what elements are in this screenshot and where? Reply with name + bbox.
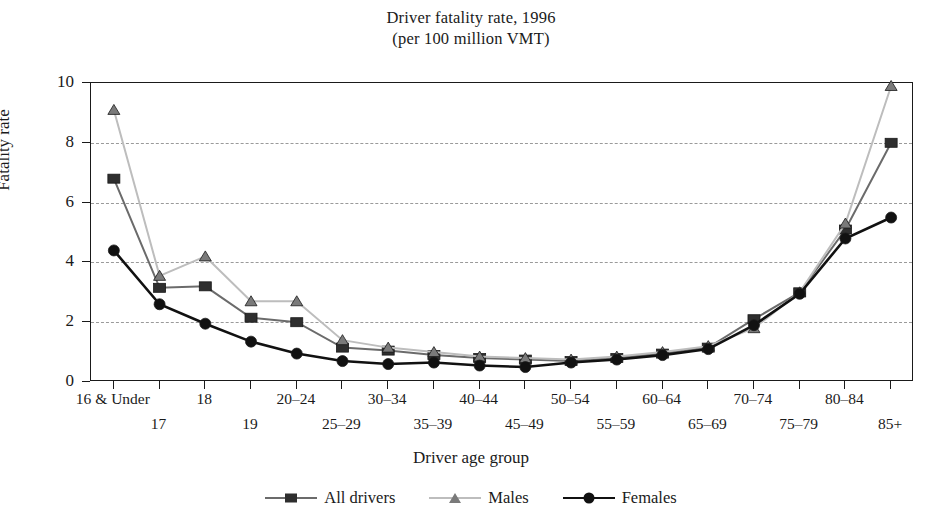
x-tick-label-12: 60–64	[642, 390, 681, 408]
legend-swatch	[265, 491, 317, 505]
x-tick-mark-0	[113, 381, 114, 389]
legend-marker-circle-icon	[583, 493, 594, 504]
x-tick-label-4: 20–24	[276, 390, 315, 408]
data-point	[428, 357, 439, 368]
x-tick-mark-10	[570, 381, 571, 389]
data-point	[886, 212, 897, 223]
x-tick-label-13: 65–69	[688, 415, 727, 433]
x-tick-mark-9	[524, 381, 525, 389]
data-point	[246, 336, 257, 347]
x-tick-mark-17	[890, 381, 891, 389]
y-tick-mark-6	[82, 202, 90, 203]
y-tick-label-2: 2	[34, 311, 74, 331]
data-point	[885, 138, 897, 147]
data-point	[199, 251, 211, 261]
y-tick-label-8: 8	[34, 132, 74, 152]
x-tick-mark-2	[204, 381, 205, 389]
data-point	[108, 174, 120, 183]
y-tick-label-6: 6	[34, 192, 74, 212]
x-tick-mark-1	[159, 381, 160, 389]
data-point	[291, 318, 303, 327]
data-point	[657, 350, 668, 361]
x-tick-mark-11	[616, 381, 617, 389]
legend-swatch	[429, 491, 481, 505]
x-tick-label-15: 75–79	[779, 415, 818, 433]
data-point	[154, 283, 166, 292]
legend-marker-square-icon	[285, 494, 297, 503]
x-tick-mark-12	[662, 381, 663, 389]
legend-item-females[interactable]: Females	[563, 488, 677, 508]
data-point	[474, 360, 485, 371]
x-tick-mark-16	[844, 381, 845, 389]
data-point	[611, 354, 622, 365]
data-point	[245, 313, 257, 322]
y-tick-label-4: 4	[34, 251, 74, 271]
x-tick-label-2: 18	[197, 390, 213, 408]
x-tick-mark-8	[479, 381, 480, 389]
x-tick-label-1: 17	[151, 415, 167, 433]
chart-subtitle: (per 100 million VMT)	[0, 29, 942, 50]
y-tick-mark-4	[82, 261, 90, 262]
x-tick-mark-13	[707, 381, 708, 389]
x-tick-mark-7	[433, 381, 434, 389]
legend-label: Males	[488, 488, 528, 508]
x-tick-label-14: 70–74	[734, 390, 773, 408]
x-tick-label-9: 45–49	[505, 415, 544, 433]
data-point	[840, 233, 851, 244]
x-tick-mark-5	[341, 381, 342, 389]
series-females	[108, 212, 896, 372]
data-point	[566, 357, 577, 368]
data-point	[199, 282, 211, 291]
x-tick-label-7: 35–39	[414, 415, 453, 433]
data-point	[291, 348, 302, 359]
data-point	[520, 362, 531, 373]
y-axis-title: Fatality rate	[0, 109, 14, 191]
data-point	[154, 299, 165, 310]
series-males	[108, 80, 897, 364]
data-point	[337, 356, 348, 367]
series-line	[114, 143, 891, 361]
x-tick-label-3: 19	[242, 415, 258, 433]
y-tick-label-10: 10	[34, 72, 74, 92]
x-tick-label-8: 40–44	[459, 390, 498, 408]
data-point	[748, 320, 759, 331]
plot-area	[90, 82, 913, 381]
legend-label: Females	[622, 488, 677, 508]
x-tick-label-5: 25–29	[322, 415, 361, 433]
legend-item-males[interactable]: Males	[429, 488, 528, 508]
data-point	[703, 344, 714, 355]
legend-marker-triangle-icon	[449, 493, 461, 503]
data-point	[200, 318, 211, 329]
chart-title: Driver fatality rate, 1996	[0, 8, 942, 29]
legend-item-all-drivers[interactable]: All drivers	[265, 488, 395, 508]
x-tick-label-17: 85+	[878, 415, 902, 433]
data-point	[794, 288, 805, 299]
data-point	[383, 359, 394, 370]
x-tick-mark-14	[753, 381, 754, 389]
series-line	[114, 218, 891, 367]
x-tick-mark-6	[387, 381, 388, 389]
y-tick-mark-2	[82, 321, 90, 322]
chart-legend: All driversMalesFemales	[0, 488, 942, 508]
y-tick-mark-10	[82, 82, 90, 83]
x-tick-mark-4	[296, 381, 297, 389]
x-tick-label-6: 30–34	[368, 390, 407, 408]
y-tick-label-0: 0	[34, 371, 74, 391]
x-tick-mark-3	[250, 381, 251, 389]
x-tick-label-11: 55–59	[596, 415, 635, 433]
legend-label: All drivers	[324, 488, 395, 508]
x-tick-mark-15	[799, 381, 800, 389]
data-point	[885, 80, 897, 90]
x-tick-label-16: 80–84	[825, 390, 864, 408]
y-tick-mark-0	[82, 381, 90, 382]
x-tick-label-0: 16 & Under	[76, 390, 150, 408]
chart-title-block: Driver fatality rate, 1996 (per 100 mill…	[0, 8, 942, 49]
legend-swatch	[563, 491, 615, 505]
y-tick-mark-8	[82, 142, 90, 143]
x-axis-title: Driver age group	[0, 448, 942, 468]
series-layer	[91, 83, 914, 382]
series-line	[114, 86, 891, 360]
fatality-rate-chart: Driver fatality rate, 1996 (per 100 mill…	[0, 0, 942, 531]
data-point	[108, 245, 119, 256]
x-tick-label-10: 50–54	[551, 390, 590, 408]
